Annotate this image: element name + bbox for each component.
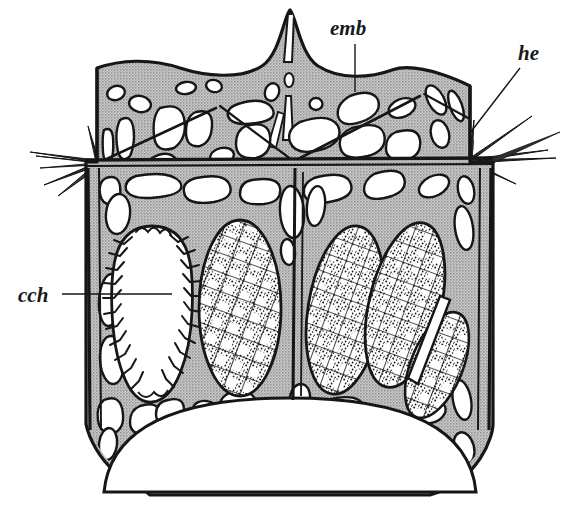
skeletal-section-illustration: emb he cch — [0, 0, 579, 508]
label-emb: emb — [330, 16, 366, 40]
label-cch: cch — [18, 283, 48, 307]
label-he: he — [518, 41, 539, 65]
figure-root: emb he cch — [0, 0, 579, 508]
